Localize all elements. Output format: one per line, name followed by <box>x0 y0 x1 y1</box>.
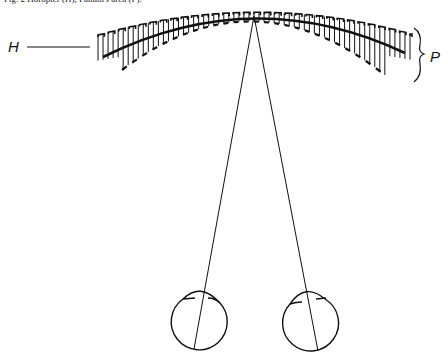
horopter-label: H <box>8 38 19 55</box>
left-visual-axis <box>194 16 254 349</box>
panum-label: P <box>430 48 440 65</box>
horopter-diagram: H P <box>0 0 448 361</box>
panum-brace <box>414 28 424 82</box>
right-visual-axis <box>254 16 318 351</box>
right-eye <box>283 292 339 351</box>
